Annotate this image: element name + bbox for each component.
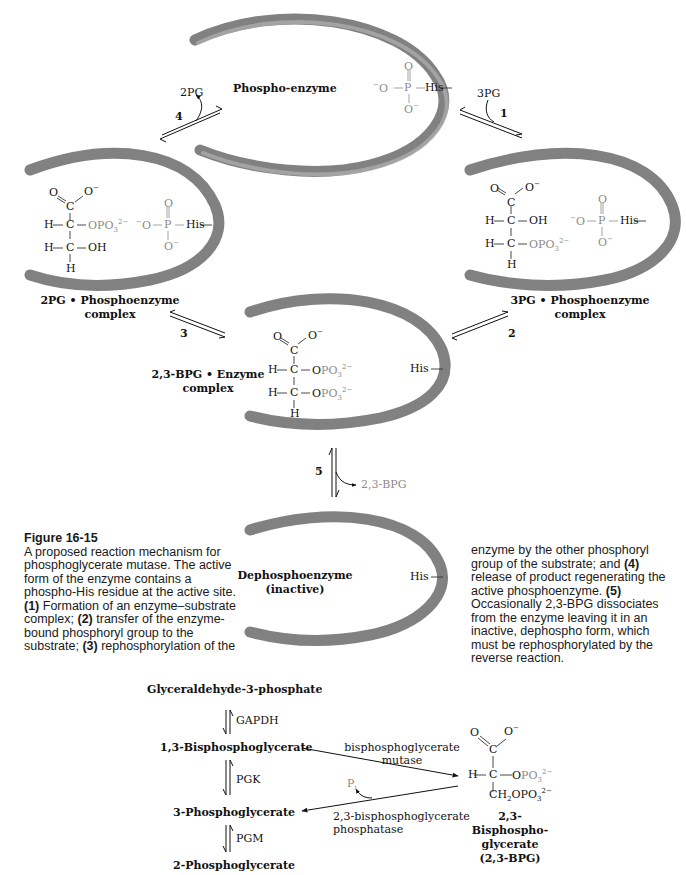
figure-number: Figure 16-15 <box>24 532 236 546</box>
arrow-step-5 <box>329 448 356 497</box>
metabolite-3pg: 3-Phosphoglycerate <box>173 806 295 819</box>
metabolite-2pg: 2-Phosphoglycerate <box>173 859 295 872</box>
metabolite-gap: Glyceraldehyde-3-phosphate <box>147 683 322 696</box>
species-bpg-released: 2,3-BPG <box>361 478 406 491</box>
structure-bpg-bound: O O− C H C OPO32− H C OPO32− H <box>268 330 388 420</box>
arrow-step-4 <box>160 95 222 142</box>
step-number-5: 5 <box>315 465 323 479</box>
state-label-phospho-enzyme: Phospho-enzyme <box>233 82 337 96</box>
arrow-step-1 <box>460 100 522 138</box>
species-3pg-bound: 3PG <box>477 87 500 100</box>
enzyme-pgk: PGK <box>236 773 260 786</box>
structure-2-3-bpg: O O− C H C OPO32− CH2OPO32− <box>468 726 588 806</box>
phosphoryl-oxygen-top: O <box>404 60 413 73</box>
label-2-3-bpg-product: 2,3-Bisphospho- glycerate (2,3-BPG) <box>460 810 560 866</box>
phosphoryl-oxygen-bottom: O− <box>404 102 419 116</box>
label-bpg-phosphatase: 2,3-bisphosphoglycerate phosphatase <box>333 810 470 836</box>
phosphorus-atom: P <box>404 81 411 94</box>
phospho-his-3pg: −O O P O− His <box>570 193 660 253</box>
his-residue-bpg: His <box>410 362 429 375</box>
state-label-2pg-complex: 2PG • Phosphoenzyme complex <box>20 294 200 322</box>
figure-caption-left: Figure 16-15 A proposed reaction mechani… <box>24 532 236 654</box>
pathway-arrows <box>223 710 233 852</box>
complex-structure-bonds <box>53 70 646 577</box>
enzyme-gapdh: GAPDH <box>236 714 279 727</box>
state-label-3pg-complex: 3PG • Phosphoenzyme complex <box>490 294 670 322</box>
step-number-1: 1 <box>500 107 508 121</box>
step-number-3: 3 <box>180 327 188 341</box>
his-residue-dephospho: His <box>410 570 429 583</box>
step-number-2: 2 <box>508 327 516 341</box>
species-2pg-released: 2PG <box>180 86 203 99</box>
his-residue-label: His <box>425 81 444 94</box>
label-inorganic-phosphate: Pi <box>347 777 357 792</box>
figure-caption-right: enzyme by the other phosphoryl group of … <box>471 544 677 666</box>
enzyme-pgm: PGM <box>236 832 263 845</box>
step-number-4: 4 <box>175 110 183 124</box>
oxygen-atom: O <box>379 82 388 95</box>
phospho-his-2pg: −O O P O− His <box>136 197 226 257</box>
state-label-bpg-complex: 2,3-BPG • Enzyme complex <box>148 368 268 396</box>
label-bpg-mutase: bisphosphoglycerate mutase <box>337 741 467 767</box>
metabolite-13bpg: 1,3-Bisphosphoglycerate <box>160 741 313 754</box>
state-label-dephospho: Dephosphoenzyme (inactive) <box>235 569 355 597</box>
phospho-his-group: −O <box>373 81 388 95</box>
